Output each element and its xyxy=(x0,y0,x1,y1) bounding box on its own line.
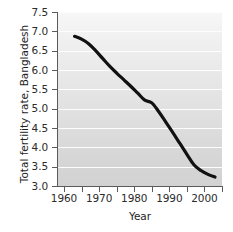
x-tick-label-2000: 2000 xyxy=(183,193,225,204)
x-tick-1975 xyxy=(117,187,118,192)
x-axis-title: Year xyxy=(57,210,223,222)
y-tick-6-5 xyxy=(52,51,57,52)
y-tick-7 xyxy=(52,31,57,32)
series-path-bangladesh-fertility xyxy=(75,36,215,177)
y-tick-7-5 xyxy=(52,12,57,13)
x-tick-1985 xyxy=(152,187,153,192)
y-tick-5-5 xyxy=(52,89,57,90)
chart-figure: 3.03.54.04.55.05.56.06.57.07.5 196019701… xyxy=(0,0,233,232)
x-tick-2005 xyxy=(222,187,223,192)
y-tick-6 xyxy=(52,70,57,71)
y-tick-3-5 xyxy=(52,167,57,168)
x-tick-1995 xyxy=(187,187,188,192)
y-tick-3 xyxy=(52,186,57,187)
y-axis-line xyxy=(57,12,58,187)
y-tick-5 xyxy=(52,109,57,110)
data-series-line xyxy=(57,12,222,186)
y-tick-4-5 xyxy=(52,128,57,129)
y-tick-4 xyxy=(52,147,57,148)
y-axis-title: Total fertility rate, Bangladesh xyxy=(18,14,30,194)
x-tick-1965 xyxy=(82,187,83,192)
